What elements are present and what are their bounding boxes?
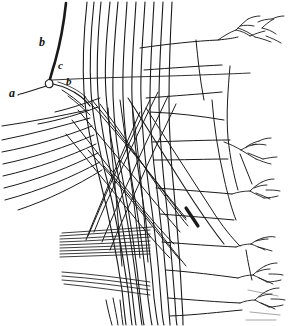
label-a: a [9,87,15,99]
figure-root: a b c b [0,0,288,326]
label-b-upper: b [39,36,45,48]
label-c: c [58,60,63,71]
label-b-lower: b [66,76,72,87]
